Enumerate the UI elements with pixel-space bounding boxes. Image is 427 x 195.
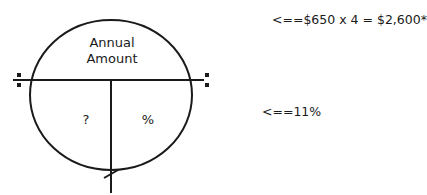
annual-amount-annotation: <==$650 x 4 = $2,600* [272,12,427,27]
unknown-value-label: ? [76,112,96,128]
percent-label: % [138,112,158,128]
annual-label-line1: Annual [76,35,148,51]
rate-annotation: <==11% [262,104,321,119]
annual-amount-label: Annual Amount [76,35,148,67]
annual-label-line2: Amount [76,51,148,67]
right-division-sign-icon [205,73,209,87]
